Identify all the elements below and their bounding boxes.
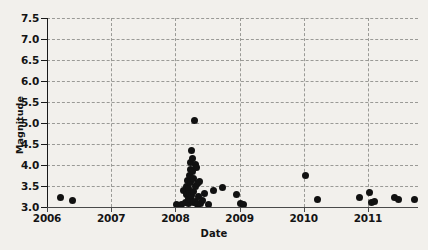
scatter-point [302, 172, 309, 179]
gridline-horizontal [47, 18, 418, 19]
gridline-horizontal [47, 123, 418, 124]
x-axis-tick-label: 2010 [282, 212, 326, 224]
y-axis-tick-label: 7.5 [5, 12, 39, 24]
plot-area [47, 18, 418, 207]
x-axis-tick-label: 2006 [25, 212, 69, 224]
gridline-horizontal [47, 165, 418, 166]
y-axis-tick-label: 6.5 [5, 54, 39, 66]
scatter-point [201, 190, 208, 197]
gridline-horizontal [47, 144, 418, 145]
y-axis-tick [41, 60, 47, 61]
x-axis-tick-label: 2008 [153, 212, 197, 224]
scatter-point [314, 196, 321, 203]
scatter-chart-figure: 3.03.54.04.55.05.56.06.57.07.5 200620072… [0, 0, 428, 250]
scatter-point [356, 194, 363, 201]
scatter-point [219, 184, 226, 191]
x-axis-spine [47, 207, 418, 208]
scatter-point [57, 194, 64, 201]
x-axis-tick-label: 2009 [218, 212, 262, 224]
gridline-horizontal [47, 186, 418, 187]
gridline-vertical [175, 18, 176, 207]
y-axis-tick-label: 7.0 [5, 33, 39, 45]
scatter-point [188, 147, 195, 154]
y-axis-tick [41, 39, 47, 40]
y-axis-tick-label: 3.5 [5, 180, 39, 192]
y-axis-tick [41, 102, 47, 103]
y-axis-tick [41, 186, 47, 187]
y-axis-tick [41, 144, 47, 145]
scatter-point [366, 189, 373, 196]
y-axis-label: Magnitude [14, 80, 25, 170]
scatter-point [69, 197, 76, 204]
scatter-point [411, 196, 418, 203]
gridline-horizontal [47, 81, 418, 82]
x-axis-tick-label: 2007 [89, 212, 133, 224]
x-axis-label: Date [0, 228, 428, 239]
gridline-vertical [368, 18, 369, 207]
gridline-vertical [111, 18, 112, 207]
y-axis-spine [47, 18, 48, 207]
y-axis-tick [41, 81, 47, 82]
scatter-point [371, 198, 378, 205]
y-axis-tick [41, 165, 47, 166]
scatter-point [395, 196, 402, 203]
scatter-point [196, 178, 203, 185]
scatter-point [193, 164, 200, 171]
y-axis-tick [41, 123, 47, 124]
gridline-horizontal [47, 60, 418, 61]
y-axis-tick [41, 18, 47, 19]
scatter-point [210, 187, 217, 194]
gridline-horizontal [47, 102, 418, 103]
x-axis-tick-label: 2011 [346, 212, 390, 224]
gridline-vertical [240, 18, 241, 207]
gridline-horizontal [47, 39, 418, 40]
